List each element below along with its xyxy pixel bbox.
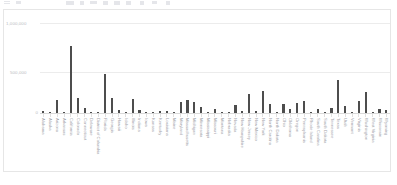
bar-cell[interactable] xyxy=(280,23,287,113)
bar-cell[interactable] xyxy=(328,23,335,113)
shape-icon[interactable] xyxy=(103,1,108,5)
x-axis-tick-label: Pennsylvania xyxy=(302,118,307,143)
bar-cell[interactable] xyxy=(301,23,308,113)
bar-cell[interactable] xyxy=(54,23,61,113)
x-axis-tick-label: Oklahoma xyxy=(288,118,293,137)
bar-cell[interactable] xyxy=(225,23,232,113)
bar[interactable] xyxy=(193,102,195,113)
tick-cell xyxy=(61,114,68,117)
bar[interactable] xyxy=(234,105,236,113)
table-icon[interactable] xyxy=(80,1,84,5)
bar-cell[interactable] xyxy=(122,23,129,113)
tick-mark xyxy=(358,114,359,117)
chart-icon[interactable] xyxy=(114,1,120,5)
bar-cell[interactable] xyxy=(335,23,342,113)
image-icon[interactable] xyxy=(126,1,131,5)
bar-cell[interactable] xyxy=(177,23,184,113)
bar-cell[interactable] xyxy=(143,23,150,113)
bar-cell[interactable] xyxy=(136,23,143,113)
plot-area: 1,000,000 500,000 0 AlabamaAlaskaArizona… xyxy=(4,10,392,173)
bar[interactable] xyxy=(344,106,346,113)
bar-cell[interactable] xyxy=(342,23,349,113)
bar-cell[interactable] xyxy=(163,23,170,113)
bar-cell[interactable] xyxy=(287,23,294,113)
bar-cell[interactable] xyxy=(294,23,301,113)
gear-icon[interactable] xyxy=(140,1,144,5)
x-label-cell: New York xyxy=(260,118,267,185)
bar-cell[interactable] xyxy=(115,23,122,113)
bar[interactable] xyxy=(180,102,182,113)
line-icon[interactable] xyxy=(90,1,97,4)
bar-cell[interactable] xyxy=(198,23,205,113)
bar[interactable] xyxy=(70,46,72,114)
bar-cell[interactable] xyxy=(102,23,109,113)
bar-cell[interactable] xyxy=(218,23,225,113)
bar-cell[interactable] xyxy=(314,23,321,113)
tick-cell xyxy=(321,114,328,117)
undo-icon[interactable] xyxy=(16,1,21,4)
bar[interactable] xyxy=(303,101,305,113)
bar[interactable] xyxy=(111,98,113,113)
chart-panel[interactable]: 1,000,000 500,000 0 AlabamaAlaskaArizona… xyxy=(3,9,391,172)
tick-cell xyxy=(136,114,143,117)
bar[interactable] xyxy=(56,100,58,114)
bar-cell[interactable] xyxy=(61,23,68,113)
bar-cell[interactable] xyxy=(253,23,260,113)
bar-cell[interactable] xyxy=(74,23,81,113)
bar[interactable] xyxy=(269,104,271,113)
bar[interactable] xyxy=(262,91,264,113)
bar[interactable] xyxy=(282,104,284,113)
bar-cell[interactable] xyxy=(349,23,356,113)
bar[interactable] xyxy=(186,100,188,113)
bar-cell[interactable] xyxy=(369,23,376,113)
bar[interactable] xyxy=(337,80,339,113)
bar-cell[interactable] xyxy=(67,23,74,113)
bar-cell[interactable] xyxy=(266,23,273,113)
bar-cell[interactable] xyxy=(239,23,246,113)
more-icon[interactable] xyxy=(166,1,170,5)
bar-cell[interactable] xyxy=(184,23,191,113)
bar-cell[interactable] xyxy=(81,23,88,113)
filter-icon[interactable] xyxy=(152,1,157,4)
bar-cell[interactable] xyxy=(383,23,390,113)
bar-cell[interactable] xyxy=(88,23,95,113)
bar-cell[interactable] xyxy=(308,23,315,113)
bar-cell[interactable] xyxy=(321,23,328,113)
x-label-cell: Wyoming xyxy=(383,118,390,185)
bar[interactable] xyxy=(358,101,360,113)
bar-cell[interactable] xyxy=(273,23,280,113)
x-label-cell: Michigan xyxy=(191,118,198,185)
tick-mark xyxy=(372,114,373,117)
bar[interactable] xyxy=(365,92,367,113)
tick-mark xyxy=(112,114,113,117)
tick-cell xyxy=(198,114,205,117)
bar-cell[interactable] xyxy=(205,23,212,113)
bar-cell[interactable] xyxy=(356,23,363,113)
bar-cell[interactable] xyxy=(47,23,54,113)
tick-cell xyxy=(266,114,273,117)
bar[interactable] xyxy=(132,99,134,113)
grid-icon[interactable] xyxy=(66,1,74,5)
bar-cell[interactable] xyxy=(95,23,102,113)
bar-cell[interactable] xyxy=(362,23,369,113)
bar[interactable] xyxy=(248,94,250,113)
x-label-cell: Oregon xyxy=(294,118,301,185)
bar-cell[interactable] xyxy=(157,23,164,113)
bar-cell[interactable] xyxy=(150,23,157,113)
bar-cell[interactable] xyxy=(211,23,218,113)
y-axis-tick-label-500000: 500,000 xyxy=(10,70,38,75)
bar-cell[interactable] xyxy=(246,23,253,113)
bar-cell[interactable] xyxy=(260,23,267,113)
bar[interactable] xyxy=(104,74,106,113)
tick-mark xyxy=(43,114,44,117)
bar-cell[interactable] xyxy=(232,23,239,113)
bar-cell[interactable] xyxy=(376,23,383,113)
menu-icon[interactable] xyxy=(4,1,10,2)
bar[interactable] xyxy=(77,98,79,113)
bar-cell[interactable] xyxy=(109,23,116,113)
bar[interactable] xyxy=(296,103,298,113)
bar-cell[interactable] xyxy=(170,23,177,113)
bar-cell[interactable] xyxy=(191,23,198,113)
bar-cell[interactable] xyxy=(40,23,47,113)
bar-cell[interactable] xyxy=(129,23,136,113)
